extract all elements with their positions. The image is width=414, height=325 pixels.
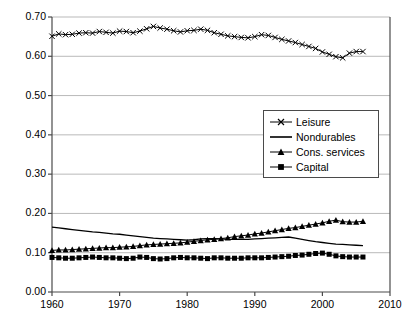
square-marker (268, 160, 294, 174)
legend-label: Cons. services (296, 146, 365, 158)
marker-square (104, 255, 109, 260)
series-line-nondurables (52, 227, 363, 245)
legend-label: Leisure (296, 116, 330, 128)
marker-square (117, 256, 122, 261)
marker-square (137, 255, 142, 260)
marker-square (306, 252, 311, 257)
marker-square (300, 253, 305, 258)
x-tick-label: 2000 (302, 298, 342, 310)
marker-square (63, 256, 68, 261)
marker-square (97, 255, 102, 260)
marker-square (225, 256, 230, 261)
marker-square (252, 255, 257, 260)
marker-square (354, 255, 359, 260)
marker-square (178, 255, 183, 260)
marker-square (50, 255, 55, 260)
y-tick-label: 0.10 (2, 246, 46, 258)
legend-item: Nondurables (268, 129, 372, 144)
marker-x (320, 49, 325, 54)
marker-square (164, 256, 169, 261)
marker-triangle (333, 217, 339, 223)
marker-square (246, 255, 251, 260)
marker-square (83, 255, 88, 260)
marker-square (333, 253, 338, 258)
chart-legend: LeisureNondurablesCons. servicesCapital (263, 110, 379, 178)
marker-square (293, 253, 298, 258)
series-markers-cons-services (49, 217, 366, 253)
marker-square (360, 255, 365, 260)
chart-container: 0.000.100.200.300.400.500.600.70 1960197… (0, 0, 414, 325)
marker-square (219, 255, 224, 260)
legend-label: Capital (296, 161, 329, 173)
legend-label: Nondurables (296, 131, 356, 143)
marker-square (124, 256, 129, 261)
triangle-marker (268, 145, 294, 159)
marker-x (313, 46, 318, 51)
marker-square (90, 255, 95, 260)
marker-square (279, 254, 284, 259)
marker-x (306, 44, 311, 49)
marker-square (56, 255, 61, 260)
marker-square (232, 256, 237, 261)
x-marker (268, 115, 294, 129)
marker-square (320, 251, 325, 256)
x-tick-label: 2010 (370, 298, 410, 310)
x-tick-label: 1990 (235, 298, 275, 310)
marker-x (144, 26, 149, 31)
y-tick-label: 0.50 (2, 89, 46, 101)
legend-item: Cons. services (268, 144, 372, 159)
x-tick-label: 1980 (167, 298, 207, 310)
marker-square (205, 256, 210, 261)
marker-square (239, 256, 244, 261)
y-tick-label: 0.40 (2, 128, 46, 140)
marker-square (185, 255, 190, 260)
y-tick-label: 0.00 (2, 285, 46, 297)
marker-square (191, 255, 196, 260)
y-tick-label: 0.20 (2, 206, 46, 218)
marker-square (151, 256, 156, 261)
series-markers-leisure (49, 24, 365, 61)
marker-square (131, 256, 136, 261)
marker-square (212, 255, 217, 260)
marker-square (144, 255, 149, 260)
y-tick-label: 0.60 (2, 49, 46, 61)
marker-square (198, 256, 203, 261)
marker-square (70, 256, 75, 261)
marker-square (110, 255, 115, 260)
marker-x (299, 42, 304, 47)
legend-item: Leisure (268, 114, 372, 129)
y-tick-label: 0.70 (2, 10, 46, 22)
marker-square (158, 257, 163, 262)
marker-square (313, 251, 318, 256)
legend-item: Capital (268, 159, 372, 174)
marker-square (259, 255, 264, 260)
marker-square (171, 255, 176, 260)
marker-square (340, 254, 345, 259)
x-tick-label: 1960 (32, 298, 72, 310)
x-tick-label: 1970 (100, 298, 140, 310)
marker-square (286, 254, 291, 259)
marker-x (272, 35, 277, 40)
line-marker (268, 130, 294, 144)
marker-square (77, 255, 82, 260)
y-tick-label: 0.30 (2, 167, 46, 179)
marker-square (327, 252, 332, 257)
marker-square (273, 255, 278, 260)
marker-square (347, 255, 352, 260)
marker-square (266, 255, 271, 260)
